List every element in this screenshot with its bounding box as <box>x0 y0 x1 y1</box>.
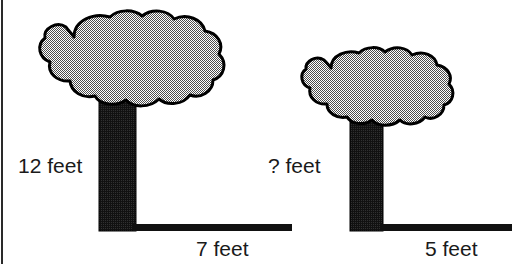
diagram-canvas <box>0 0 521 264</box>
tree-left-canopy <box>40 11 224 106</box>
tree-right-group <box>302 48 453 231</box>
tree-right-trunk <box>350 116 383 231</box>
tree-right-shadow-label: 5 feet <box>425 238 478 259</box>
tree-left-height-label: 12 feet <box>18 155 82 176</box>
tree-right-shadow-line <box>380 224 512 231</box>
tree-right-height-label: ? feet <box>268 155 321 176</box>
tree-left-shadow-line <box>133 224 292 231</box>
left-page-rule <box>1 0 3 264</box>
tree-left-trunk <box>99 96 136 231</box>
tree-left-group <box>40 11 224 231</box>
tree-left-shadow-label: 7 feet <box>196 238 249 259</box>
tree-shadow-diagram: 12 feet 7 feet ? feet 5 feet <box>0 0 521 264</box>
tree-right-canopy <box>302 48 453 126</box>
